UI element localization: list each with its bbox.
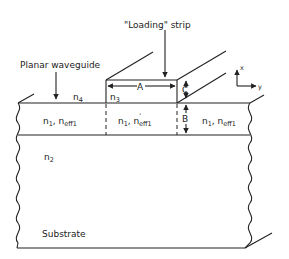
x-axis-label: x bbox=[240, 64, 244, 72]
strip-top-right-depth bbox=[177, 51, 226, 80]
left-depth-edge bbox=[18, 94, 34, 103]
center-region-index-label: n1, n'eff1 bbox=[118, 112, 152, 128]
dim-a-label: A bbox=[137, 82, 144, 92]
substrate-depth-edge bbox=[245, 233, 272, 248]
planar-waveguide-layer bbox=[18, 94, 250, 135]
loading-strip-label: "Loading" strip bbox=[124, 20, 191, 30]
dim-b-label: B bbox=[182, 114, 188, 124]
y-axis-label: y bbox=[258, 83, 262, 91]
strip-top-left-depth bbox=[106, 52, 153, 80]
right-region-index-label: n1, neff1 bbox=[202, 116, 236, 128]
coordinate-axes: x y bbox=[237, 64, 262, 91]
right-depth-edge bbox=[250, 95, 264, 103]
right-break-wave bbox=[245, 103, 252, 248]
dim-c-label: C bbox=[182, 85, 188, 95]
n4-label: n4 bbox=[73, 92, 83, 104]
left-region-index-label: n1, neff1 bbox=[43, 116, 77, 128]
planar-waveguide-label: Planar waveguide bbox=[20, 60, 101, 70]
waveguide-diagram: A C B x y "Loading" strip Planar wavegui… bbox=[0, 0, 289, 259]
n2-label: n2 bbox=[44, 152, 54, 164]
substrate-label: Substrate bbox=[42, 229, 86, 239]
loading-strip bbox=[106, 51, 226, 103]
n3-label: n3 bbox=[110, 92, 120, 104]
left-break-wave bbox=[16, 103, 19, 248]
